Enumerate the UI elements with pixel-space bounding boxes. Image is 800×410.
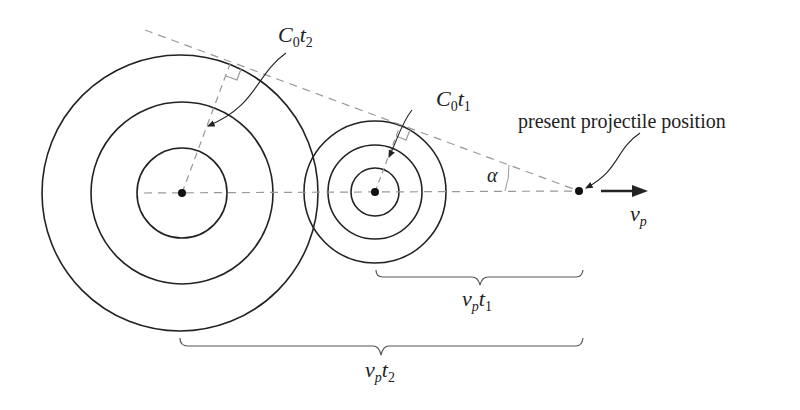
label-present-position: present projectile position bbox=[518, 110, 726, 133]
projectile-point bbox=[575, 187, 583, 195]
brace-vpt2 bbox=[180, 338, 583, 355]
brace-vpt1 bbox=[376, 270, 583, 285]
mach-cone-diagram bbox=[0, 0, 800, 410]
label-alpha: α bbox=[487, 164, 498, 187]
present-leader-arrow bbox=[586, 133, 640, 188]
alpha-arc bbox=[505, 165, 509, 191]
label-c0t2: C0t2 bbox=[278, 22, 313, 51]
velocity-arrowhead bbox=[632, 185, 648, 197]
label-vp: vp bbox=[630, 201, 647, 230]
source-point-t2 bbox=[178, 189, 186, 197]
source-point-t1 bbox=[371, 188, 379, 196]
label-vpt2: vpt2 bbox=[365, 357, 395, 386]
label-c0t1: C0t1 bbox=[436, 86, 471, 115]
label-vpt1: vpt1 bbox=[462, 286, 492, 315]
c0t2-leader-arrow bbox=[208, 53, 286, 126]
axis-line bbox=[144, 191, 579, 193]
right-angle-t2 bbox=[226, 69, 241, 80]
mach-cone-line bbox=[145, 30, 579, 191]
